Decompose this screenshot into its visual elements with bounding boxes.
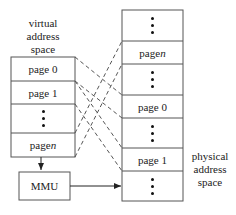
physical-ellipsis — [122, 64, 183, 95]
virtual-address-space-label: virtual address space — [10, 17, 76, 56]
physical-address-space-label: physical address space — [184, 150, 236, 189]
virtual-page-n: page n — [11, 133, 75, 157]
physical-ellipsis — [122, 118, 183, 148]
label-line: space — [184, 176, 236, 189]
label-line: physical — [184, 150, 236, 163]
physical-page-n: page n — [122, 41, 183, 64]
physical-ellipsis — [122, 171, 183, 201]
physical-page-1: page 1 — [122, 148, 183, 171]
virtual-page-0: page 0 — [11, 57, 75, 81]
virtual-page-1: page 1 — [11, 81, 75, 104]
virtual-ellipsis — [11, 104, 75, 133]
label-line: address — [10, 30, 76, 43]
physical-page-0: page 0 — [122, 95, 183, 118]
mmu-box: MMU — [19, 172, 70, 200]
label-line: virtual — [10, 17, 76, 30]
virtual-memory-diagram: virtual address space page 0 page 1 page… — [0, 0, 236, 215]
label-line: address — [184, 163, 236, 176]
physical-ellipsis — [122, 10, 183, 41]
label-line: space — [10, 43, 76, 56]
